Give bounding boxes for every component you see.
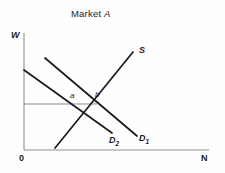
chart-title-prefix: Market bbox=[71, 8, 104, 19]
demand-curve-d2-label: D2 bbox=[109, 136, 119, 147]
point-b-label: b bbox=[95, 91, 99, 99]
chart-title: Market A bbox=[71, 9, 111, 19]
supply-demand-chart: Market A W N 0 S D1 D2 a b bbox=[0, 0, 225, 173]
demand-curve-d2 bbox=[24, 70, 112, 133]
origin-label: 0 bbox=[19, 154, 24, 163]
demand-curve-d1 bbox=[45, 58, 137, 136]
demand-curve-d1-label: D1 bbox=[139, 134, 149, 145]
point-a-label: a bbox=[70, 92, 74, 100]
x-axis-label: N bbox=[201, 154, 208, 163]
demand-d2-subscript: 2 bbox=[116, 140, 120, 147]
demand-d1-subscript: 1 bbox=[146, 138, 150, 145]
supply-curve-label: S bbox=[139, 46, 145, 55]
y-axis-label: W bbox=[11, 31, 20, 40]
chart-title-market-letter: A bbox=[104, 8, 111, 19]
